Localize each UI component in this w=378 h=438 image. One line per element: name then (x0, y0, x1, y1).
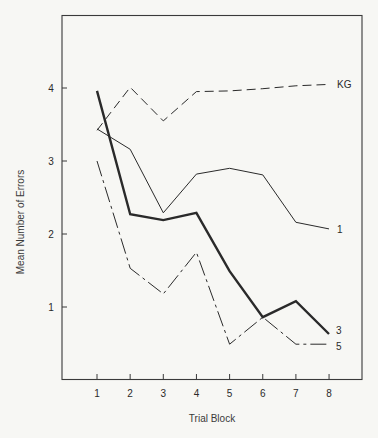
y-tick-label: 4 (48, 83, 54, 94)
x-tick-label: 7 (293, 388, 299, 399)
x-tick-label: 2 (127, 388, 133, 399)
line-chart: 1234 12345678 KG135 Mean Number of Error… (0, 0, 378, 438)
plot-frame (62, 16, 362, 380)
y-axis-ticks: 1234 (48, 83, 67, 313)
x-tick-label: 3 (161, 388, 167, 399)
y-tick-label: 3 (48, 156, 54, 167)
x-axis-ticks: 12345678 (94, 374, 332, 399)
x-tick-label: 5 (227, 388, 233, 399)
plot-canvas: 1234 12345678 KG135 (0, 0, 378, 438)
x-tick-label: 4 (194, 388, 200, 399)
x-axis-label: Trial Block (0, 413, 378, 424)
clipped-caption-line (0, 433, 378, 438)
series-label-1: 1 (337, 224, 343, 235)
x-tick-label: 8 (326, 388, 332, 399)
series-label-5: 5 (336, 341, 342, 352)
series-label-3: 3 (336, 325, 342, 336)
series-label-kg: KG (337, 79, 352, 90)
x-tick-label: 1 (94, 388, 100, 399)
y-axis-label: Mean Number of Errors (15, 170, 26, 274)
series-line-5 (97, 161, 329, 344)
series-line-kg (97, 84, 329, 130)
x-tick-label: 6 (260, 388, 266, 399)
series-end-labels: KG135 (336, 79, 352, 352)
y-tick-label: 1 (48, 302, 54, 313)
y-tick-label: 2 (48, 229, 54, 240)
series-lines (97, 84, 329, 344)
